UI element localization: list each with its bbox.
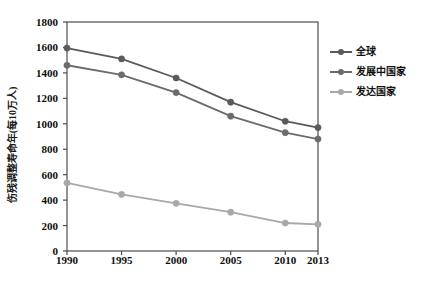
legend-swatch-icon	[330, 86, 352, 98]
series-layer	[64, 45, 321, 227]
data-point[interactable]	[315, 124, 321, 130]
data-point[interactable]	[118, 56, 124, 62]
series-line	[67, 48, 318, 128]
series-2	[64, 180, 321, 228]
legend-marker-dot-icon	[338, 49, 344, 55]
legend-marker-dot-icon	[338, 69, 344, 75]
legend-item-2[interactable]: 发达国家	[330, 82, 422, 102]
legend-swatch-icon	[330, 66, 352, 78]
chart-container: 伤残调整寿命年(每10万人) 0200400600800100012001400…	[0, 0, 422, 290]
data-point[interactable]	[282, 118, 288, 124]
data-point[interactable]	[282, 130, 288, 136]
legend-item-1[interactable]: 发展中国家	[330, 62, 422, 82]
legend-swatch-icon	[330, 46, 352, 58]
data-point[interactable]	[173, 200, 179, 206]
data-point[interactable]	[173, 90, 179, 96]
data-point[interactable]	[173, 75, 179, 81]
data-point[interactable]	[228, 209, 234, 215]
series-0	[64, 45, 321, 131]
data-point[interactable]	[118, 191, 124, 197]
data-point[interactable]	[315, 221, 321, 227]
data-point[interactable]	[64, 180, 70, 186]
data-point[interactable]	[118, 72, 124, 78]
legend-label: 发达国家	[356, 87, 396, 97]
data-point[interactable]	[64, 45, 70, 51]
data-point[interactable]	[315, 136, 321, 142]
axis-ticks	[63, 22, 318, 255]
series-1	[64, 62, 321, 142]
series-line	[67, 65, 318, 139]
data-point[interactable]	[64, 62, 70, 68]
series-line	[67, 183, 318, 224]
legend-label: 发展中国家	[356, 67, 406, 77]
data-point[interactable]	[282, 220, 288, 226]
legend-item-0[interactable]: 全球	[330, 42, 422, 62]
data-point[interactable]	[228, 99, 234, 105]
chart-legend: 全球发展中国家发达国家	[330, 42, 422, 102]
legend-label: 全球	[356, 47, 376, 57]
data-point[interactable]	[228, 113, 234, 119]
legend-marker-dot-icon	[338, 89, 344, 95]
